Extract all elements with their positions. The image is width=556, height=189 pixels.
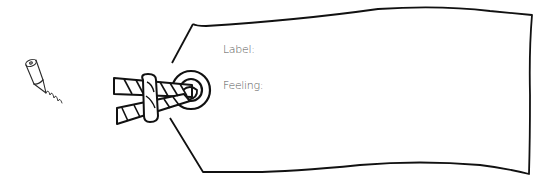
tag-illustration: Label: Feeling:	[0, 0, 556, 189]
label-field-label: Label:	[223, 43, 255, 56]
tag-drawing	[0, 0, 556, 189]
feeling-field-label: Feeling:	[223, 79, 263, 92]
pencil-icon	[25, 58, 62, 103]
